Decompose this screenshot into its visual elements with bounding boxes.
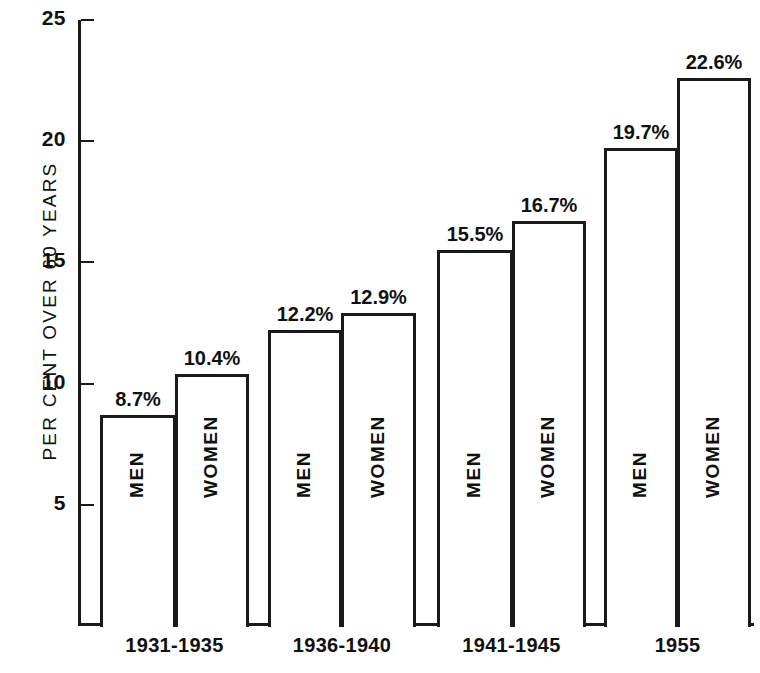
y-axis-tick-label: 15 <box>22 248 66 272</box>
x-axis-category-label: 1955 <box>604 634 751 657</box>
bar-series-label: WOMEN <box>537 415 559 498</box>
bar-series-label: MEN <box>629 451 651 498</box>
bar-value-label: 19.7% <box>613 121 670 144</box>
y-axis-tick-label: 20 <box>22 127 66 151</box>
y-axis-tick <box>81 19 94 21</box>
x-axis-category-label: 1941-1945 <box>437 634 586 657</box>
y-axis-line <box>78 20 81 626</box>
bar-series-label: WOMEN <box>367 415 389 498</box>
bar[interactable] <box>437 250 513 627</box>
y-axis-tick-label: 25 <box>22 6 66 30</box>
bar-value-label: 12.9% <box>350 286 407 309</box>
y-axis-tick <box>81 383 94 385</box>
y-axis-tick <box>81 504 94 506</box>
bar-value-label: 8.7% <box>115 388 161 411</box>
x-axis-category-label: 1936-1940 <box>268 634 416 657</box>
bar-series-label: MEN <box>463 451 485 498</box>
bar-series-label: WOMEN <box>702 415 724 498</box>
bar-value-label: 16.7% <box>521 194 578 217</box>
bar[interactable] <box>175 374 249 627</box>
bar-value-label: 22.6% <box>686 51 743 74</box>
bar-value-label: 12.2% <box>277 303 334 326</box>
bar-series-label: MEN <box>293 451 315 498</box>
y-axis-tick-label: 10 <box>22 370 66 394</box>
y-axis-tick <box>81 261 94 263</box>
bar-series-label: WOMEN <box>200 415 222 498</box>
y-axis-title: PER CENT OVER 60 YEARS <box>39 111 61 511</box>
bar[interactable] <box>604 148 678 627</box>
bar-series-label: MEN <box>126 451 148 498</box>
bar[interactable] <box>677 78 751 627</box>
y-axis-tick-label: 5 <box>22 491 66 515</box>
y-axis-tick <box>81 140 94 142</box>
bar-value-label: 10.4% <box>184 347 241 370</box>
bar-value-label: 15.5% <box>447 223 504 246</box>
x-axis-category-label: 1931-1935 <box>100 634 249 657</box>
bar-chart-figure: PER CENT OVER 60 YEARS 510152025 8.7%MEN… <box>0 0 760 673</box>
bar[interactable] <box>100 415 176 627</box>
